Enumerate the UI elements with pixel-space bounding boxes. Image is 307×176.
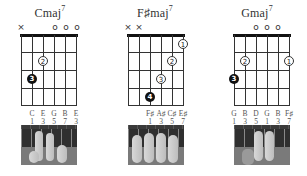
finger-marker: 4	[145, 92, 155, 102]
finger-marker: 2	[38, 56, 48, 66]
finger-marker: 2	[167, 56, 177, 66]
chord-superscript: 7	[169, 4, 173, 13]
fretboard-grid: 2 1 3	[234, 35, 290, 106]
chord-cmaj7: Cmaj7 × o o o 2 3 C E G B E 1 3 5 7 3	[0, 0, 100, 176]
fret	[128, 52, 184, 53]
fret	[128, 105, 184, 106]
chord-name: Gmaj	[241, 6, 268, 20]
muted-string-icon: ×	[124, 23, 132, 32]
hand-photo	[21, 125, 77, 165]
finger-marker: 3	[27, 74, 37, 84]
chord-fsharpmaj7: F♯maj7 × × 1 2 3 4 F♯ A♯ C♯ E♯ 1 3 5 7	[105, 0, 205, 176]
hand-photo	[234, 125, 290, 165]
open-string-icon: o	[63, 23, 69, 32]
open-string-icon: o	[264, 23, 270, 32]
chord-title: F♯maj7	[105, 5, 205, 21]
fret	[128, 88, 184, 89]
muted-string-icon: ×	[17, 23, 25, 32]
nut	[127, 34, 185, 37]
open-string-icon: o	[52, 23, 58, 32]
chord-name: F♯maj	[137, 6, 169, 20]
finger-marker: 3	[229, 74, 239, 84]
chord-title: Gmaj7	[207, 5, 307, 21]
chord-superscript: 7	[61, 4, 65, 13]
fret	[21, 70, 77, 71]
chord-gmaj7: Gmaj7 o o o 2 1 3 G B D G B F♯ 1 3 5 1 3…	[207, 0, 307, 176]
chord-title: Cmaj7	[0, 5, 100, 21]
fret	[234, 70, 290, 71]
fretboard-grid: 2 3	[21, 35, 77, 106]
fret	[128, 70, 184, 71]
open-string-icon: o	[253, 23, 259, 32]
fretboard-grid: 1 2 3 4	[128, 35, 184, 106]
chord-superscript: 7	[269, 4, 273, 13]
fret	[21, 105, 77, 106]
open-string-icon: o	[74, 23, 80, 32]
finger-marker: 2	[240, 56, 250, 66]
finger-marker: 1	[178, 39, 188, 49]
finger-marker: 3	[156, 74, 166, 84]
hand-photo	[128, 125, 184, 165]
fret	[234, 52, 290, 53]
fret	[234, 105, 290, 106]
muted-string-icon: ×	[135, 23, 143, 32]
chord-name: Cmaj	[34, 6, 61, 20]
fret	[21, 52, 77, 53]
nut	[20, 34, 78, 37]
fret	[234, 88, 290, 89]
open-string-icon: o	[275, 23, 281, 32]
fret	[21, 88, 77, 89]
nut	[233, 34, 291, 37]
finger-marker: 1	[284, 56, 294, 66]
